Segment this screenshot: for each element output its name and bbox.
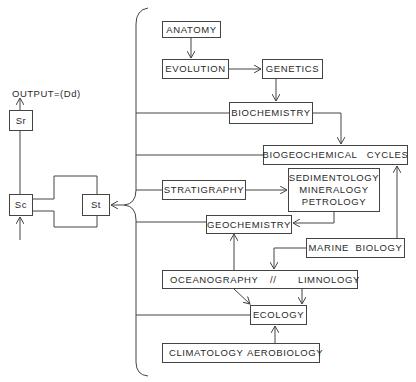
biogeochemical-cycles-box: BIOGEOCHEMICAL CYCLES — [263, 145, 408, 165]
sc-box: Sc — [9, 194, 33, 216]
climatology-aerobiology-box: CLIMATOLOGY AEROBIOLOGY — [162, 343, 320, 363]
oceanography-label: OCEANOGRAPHY — [170, 274, 259, 286]
mineralogy-label: MINERALOGY — [299, 184, 368, 196]
separator-label: // — [270, 274, 276, 286]
evolution-box: EVOLUTION — [162, 59, 229, 79]
output-label: OUTPUT=(Dd) — [12, 88, 81, 99]
geochemistry-box: GEOCHEMISTRY — [206, 215, 292, 234]
aerobiology-label: AEROBIOLOGY — [247, 347, 323, 359]
st-box: St — [82, 194, 110, 216]
sedimentology-label: SEDIMENTOLOGY — [289, 172, 380, 184]
bracket — [124, 8, 148, 376]
sedimentology-box: SEDIMENTOLOGY MINERALOGY PETROLOGY — [288, 168, 380, 212]
genetics-box: GENETICS — [262, 59, 323, 79]
anatomy-box: ANATOMY — [162, 21, 221, 38]
climatology-label: CLIMATOLOGY — [169, 347, 243, 359]
sr-box: Sr — [9, 110, 33, 131]
biochemistry-box: BIOCHEMISTRY — [229, 102, 313, 124]
stratigraphy-box: STRATIGRAPHY — [162, 180, 246, 200]
limnology-label: LIMNOLOGY — [298, 274, 360, 286]
ecology-box: ECOLOGY — [250, 305, 307, 325]
petrology-label: PETROLOGY — [302, 196, 367, 208]
oceanography-limnology-box: OCEANOGRAPHY // LIMNOLOGY — [162, 270, 358, 289]
marine-biology-box: MARINE BIOLOGY — [306, 238, 405, 258]
